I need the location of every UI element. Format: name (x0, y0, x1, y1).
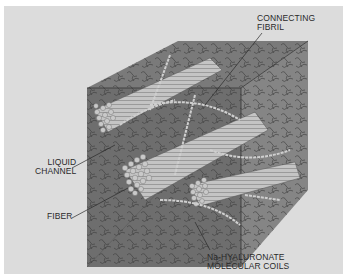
label-molecular-coils: Na-HYALURONATE MOLECULAR COILS (207, 253, 289, 271)
cube-diagram (0, 0, 345, 279)
label-connecting-fibril: CONNECTING FIBRIL (257, 14, 315, 32)
label-fiber: FIBER (47, 212, 73, 221)
label-liquid-channel: LIQUID CHANNEL (35, 158, 76, 176)
